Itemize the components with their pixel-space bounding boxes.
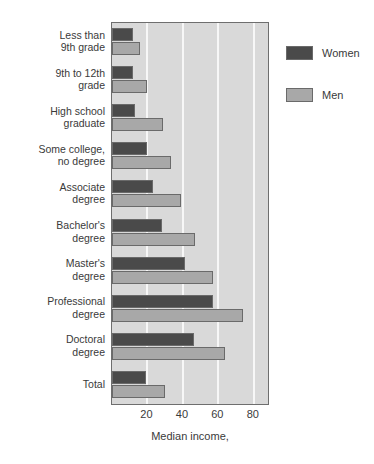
bar-men [112,80,147,93]
bar-men [112,156,171,169]
category-label-line: 9th grade [0,41,105,54]
x-tick-label-60: 60 [211,408,223,420]
category-label-line: degree [0,308,105,321]
category-label-line: 9th to 12th [0,67,105,80]
x-tick-label-40: 40 [176,408,188,420]
x-tick-label-20: 20 [140,408,152,420]
bar-men [112,194,181,207]
bar-men [112,271,213,284]
category-label-line: Total [0,378,105,391]
bar-group [112,180,268,208]
bar-men [112,42,140,55]
bar-women [112,333,194,346]
legend-swatch-men-icon [286,88,313,102]
category-label-line: no degree [0,155,105,168]
category-label-line: degree [0,346,105,359]
bars-layer [112,23,268,404]
bar-group [112,371,268,399]
bar-women [112,28,133,41]
legend-item-men: Men [286,88,360,102]
bar-group [112,333,268,361]
bar-women [112,104,135,117]
legend-label-women: Women [322,47,360,59]
x-tick-label-80: 80 [247,408,259,420]
bar-group [112,219,268,247]
bar-group [112,295,268,323]
category-label-line: Master's [0,257,105,270]
bar-women [112,142,147,155]
category-label: Total [0,378,105,391]
bar-men [112,309,243,322]
category-label-line: High school [0,105,105,118]
category-label-line: Some college, [0,143,105,156]
category-label: Bachelor'sdegree [0,219,105,244]
category-label-line: Bachelor's [0,219,105,232]
bar-women [112,180,153,193]
bar-men [112,385,165,398]
category-label: 9th to 12thgrade [0,67,105,92]
category-label: Less than9th grade [0,29,105,54]
bar-women [112,295,213,308]
category-label-line: Professional [0,295,105,308]
category-axis-labels: Less than9th grade9th to 12thgradeHigh s… [0,22,105,405]
category-label-line: grade [0,79,105,92]
x-axis-title: Median income, [111,430,269,442]
bar-group [112,142,268,170]
category-label: Doctoraldegree [0,333,105,358]
category-label: High schoolgraduate [0,105,105,130]
bar-women [112,66,133,79]
bar-women [112,257,185,270]
bar-men [112,347,225,360]
bar-group [112,104,268,132]
category-label-line: Less than [0,29,105,42]
category-label-line: graduate [0,117,105,130]
bar-women [112,371,146,384]
bar-men [112,233,195,246]
bar-group [112,66,268,94]
category-label-line: Doctoral [0,333,105,346]
category-label-line: degree [0,232,105,245]
category-label-line: degree [0,270,105,283]
category-label: Professionaldegree [0,295,105,320]
category-label-line: degree [0,193,105,206]
bar-chart-figure: Less than9th grade9th to 12thgradeHigh s… [0,0,374,464]
category-label: Associatedegree [0,181,105,206]
bar-men [112,118,163,131]
category-label-line: Associate [0,181,105,194]
legend-item-women: Women [286,46,360,60]
bar-group [112,257,268,285]
x-axis-tick-labels: 20406080 [111,408,269,424]
category-label: Master'sdegree [0,257,105,282]
legend: Women Men [286,46,360,130]
bar-group [112,28,268,56]
legend-label-men: Men [322,89,343,101]
category-label: Some college,no degree [0,143,105,168]
legend-swatch-women-icon [286,46,313,60]
bar-women [112,219,162,232]
